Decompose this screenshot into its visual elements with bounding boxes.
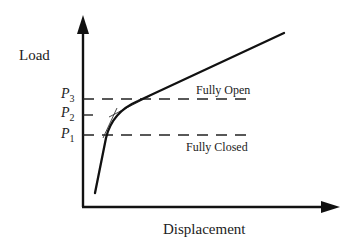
p1-label: P1 xyxy=(60,126,75,144)
load-displacement-diagram: Load Displacement P3 P2 P1 Fully Open Fu… xyxy=(0,0,358,251)
fully-open-label: Fully Open xyxy=(196,83,250,97)
p3-label: P3 xyxy=(60,86,75,104)
fully-closed-label: Fully Closed xyxy=(186,140,248,154)
x-axis-arrow-icon xyxy=(321,201,340,213)
y-axis-label: Load xyxy=(19,47,50,63)
x-axis-label: Displacement xyxy=(163,221,246,237)
initial-tangent-line xyxy=(103,108,117,138)
y-axis-arrow-icon xyxy=(77,15,89,34)
p2-label: P2 xyxy=(60,105,75,123)
load-displacement-curve xyxy=(95,33,284,193)
